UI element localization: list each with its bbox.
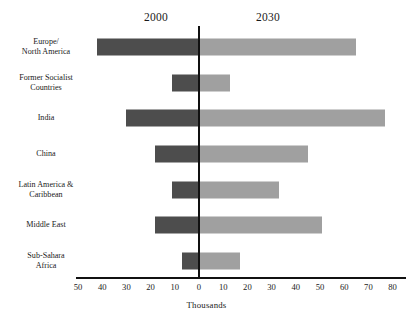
bar-2000 <box>97 38 199 55</box>
bar-2000 <box>155 145 199 162</box>
bar-2000 <box>172 74 199 91</box>
chart-row: Former Socialist Countries <box>0 65 413 101</box>
diverging-bar-chart: 2000 2030 Europe/ North AmericaFormer So… <box>0 0 413 330</box>
x-axis-line <box>76 277 406 279</box>
x-axis-title: Thousands <box>0 300 413 310</box>
category-label: Latin America & Caribbean <box>0 179 92 199</box>
bar-2030 <box>199 110 385 127</box>
series-header-2030: 2030 <box>238 11 298 23</box>
chart-row: India <box>0 100 413 136</box>
bar-2000 <box>172 181 199 198</box>
plot-area: Europe/ North AmericaFormer Socialist Co… <box>0 27 413 277</box>
bar-2000 <box>155 217 199 234</box>
chart-row: Latin America & Caribbean <box>0 172 413 208</box>
x-tick-label: 80 <box>378 282 408 292</box>
chart-row: Europe/ North America <box>0 29 413 65</box>
bar-2030 <box>199 217 322 234</box>
category-label: Europe/ North America <box>0 37 92 57</box>
series-header-2000: 2000 <box>126 11 186 23</box>
category-label: China <box>0 149 92 159</box>
bar-2000 <box>182 253 199 270</box>
bar-2000 <box>126 110 199 127</box>
category-label: Sub-Sahara Africa <box>0 251 92 271</box>
category-label: India <box>0 113 92 123</box>
zero-axis-line <box>198 26 200 279</box>
chart-row: China <box>0 136 413 172</box>
bar-2030 <box>199 181 279 198</box>
chart-row: Middle East <box>0 208 413 244</box>
bar-2030 <box>199 38 356 55</box>
category-label: Middle East <box>0 220 92 230</box>
bar-2030 <box>199 253 240 270</box>
category-label: Former Socialist Countries <box>0 72 92 92</box>
bar-2030 <box>199 145 308 162</box>
bar-2030 <box>199 74 230 91</box>
chart-row: Sub-Sahara Africa <box>0 243 413 279</box>
